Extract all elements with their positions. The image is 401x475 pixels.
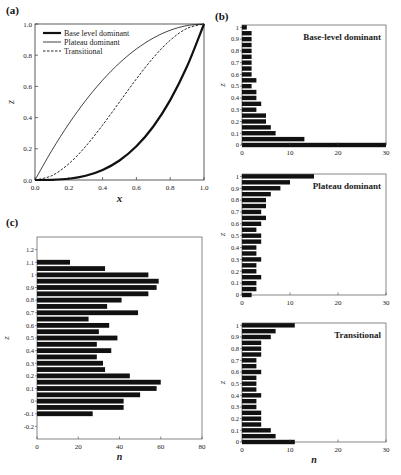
- y-tick-label: 0.1: [26, 385, 34, 392]
- bar: [242, 416, 261, 420]
- bar: [242, 405, 256, 409]
- bar: [37, 291, 148, 296]
- bar: [242, 96, 256, 100]
- y-tick-label: 1: [236, 173, 239, 180]
- x-tick-label: 20: [75, 443, 83, 451]
- y-tick-label: 0.4: [231, 94, 240, 101]
- bar: [242, 381, 256, 385]
- bar: [242, 31, 252, 35]
- bar: [242, 257, 261, 261]
- bar: [242, 269, 256, 273]
- y-tick-label: 1: [236, 322, 239, 329]
- x-tick-label: 0: [240, 446, 244, 454]
- bar: [242, 78, 256, 82]
- bar: [242, 113, 266, 117]
- y-tick-label: 0.6: [231, 71, 240, 78]
- x-tick-label: 10: [287, 149, 295, 157]
- plot-frame: [242, 323, 386, 442]
- bar: [242, 192, 271, 196]
- bar: [37, 361, 103, 366]
- y-tick-label: 0.4: [23, 114, 32, 122]
- bar: [242, 434, 276, 438]
- bar: [242, 245, 256, 249]
- chart-a-profile-curves: 0.00.20.40.60.81.00.00.20.40.60.81.0xzBa…: [0, 0, 210, 210]
- bar: [242, 25, 247, 29]
- y-tick-label: 0.7: [26, 309, 35, 316]
- y-tick-label: 0.5: [231, 380, 239, 387]
- bar: [242, 72, 252, 76]
- bar: [37, 355, 97, 360]
- y-tick-label: 1.1: [26, 259, 34, 266]
- bar: [37, 310, 138, 315]
- bar: [37, 298, 122, 303]
- chart-title: Plateau dominant: [313, 181, 381, 191]
- x-tick-label: 60: [157, 443, 165, 451]
- y-tick-label: 0.5: [231, 232, 239, 239]
- y-tick-label: 0.7: [231, 357, 240, 364]
- y-tick-label: 0.7: [231, 59, 240, 66]
- chart-b-base-level-dominant: 010203000.10.20.30.40.50.60.70.80.91nzBa…: [210, 0, 401, 160]
- y-tick-label: 0.6: [23, 83, 32, 91]
- y-tick-label: 0: [236, 291, 239, 298]
- x-tick-label: 0.8: [166, 184, 175, 192]
- x-axis-label: n: [117, 451, 123, 462]
- y-tick-label: 0.5: [231, 82, 239, 89]
- x-tick-label: 0: [35, 443, 39, 451]
- bar: [242, 281, 256, 285]
- y-tick-label: 1: [236, 24, 239, 31]
- y-tick-label: 0.2: [26, 372, 34, 379]
- bar: [242, 393, 261, 397]
- bar: [242, 335, 271, 339]
- bar: [37, 386, 157, 391]
- bar: [37, 367, 105, 372]
- y-tick-label: 0.7: [231, 208, 240, 215]
- bar: [37, 399, 124, 404]
- y-axis-label: z: [217, 380, 227, 385]
- x-tick-label: 20: [335, 149, 343, 157]
- x-tick-label: 0.2: [64, 184, 73, 192]
- bar: [242, 49, 252, 53]
- bar: [242, 102, 261, 106]
- bar: [37, 342, 97, 347]
- legend-label: Base level dominant: [64, 29, 130, 38]
- x-tick-label: 0.0: [31, 184, 40, 192]
- bar: [242, 43, 252, 47]
- x-axis-label: n: [311, 454, 317, 465]
- y-tick-label: 0: [236, 141, 239, 148]
- bar: [242, 84, 252, 88]
- bar: [37, 373, 130, 378]
- y-axis-label: z: [1, 336, 11, 341]
- bar: [242, 222, 261, 226]
- bar: [242, 55, 252, 59]
- bar: [242, 198, 266, 202]
- y-axis-label: z: [217, 83, 227, 88]
- bar: [242, 174, 314, 178]
- bar: [242, 293, 252, 297]
- y-tick-label: 0.2: [231, 118, 239, 125]
- bar: [242, 90, 256, 94]
- bar: [242, 125, 271, 129]
- x-tick-label: 0.4: [98, 184, 107, 192]
- y-tick-label: 0.1: [231, 427, 239, 434]
- bar: [242, 387, 256, 391]
- x-tick-label: 30: [383, 446, 391, 454]
- bar: [37, 285, 157, 290]
- x-tick-label: 1.0: [200, 184, 209, 192]
- bar: [242, 204, 266, 208]
- bar: [242, 352, 261, 356]
- bar: [37, 392, 140, 397]
- y-tick-label: 0.3: [26, 360, 34, 367]
- bar: [242, 108, 256, 112]
- bar: [242, 440, 295, 444]
- bar: [37, 336, 117, 341]
- legend-label: Plateau dominant: [64, 38, 121, 47]
- bar: [242, 358, 256, 362]
- bar: [242, 228, 256, 232]
- bar: [37, 317, 89, 322]
- y-tick-label: 0.3: [231, 403, 239, 410]
- bar: [242, 411, 261, 415]
- y-tick-label: 0.2: [231, 415, 239, 422]
- chart-b-transitional: 010203000.10.20.30.40.50.60.70.80.91nzTr…: [210, 305, 401, 475]
- x-tick-label: 30: [383, 149, 391, 157]
- bar: [37, 304, 107, 309]
